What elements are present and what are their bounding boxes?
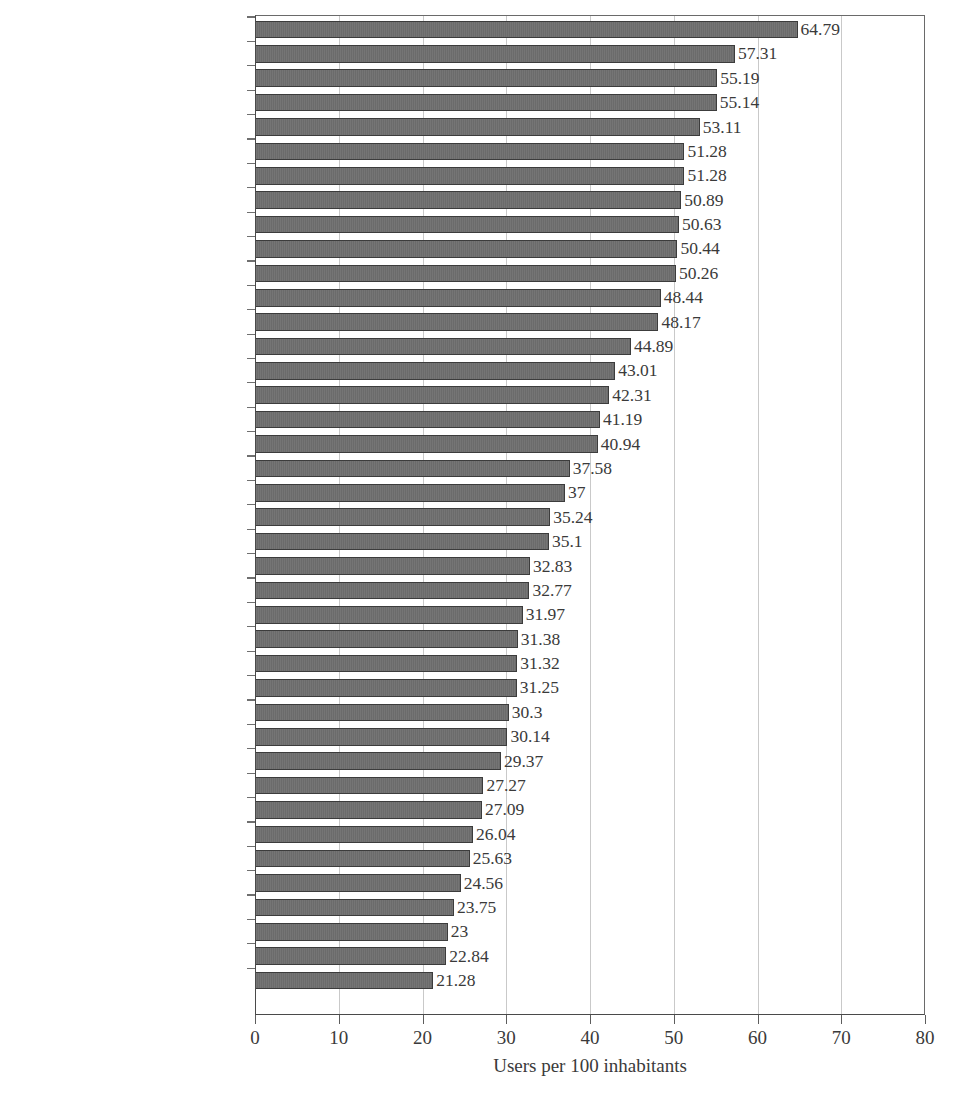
bar (255, 118, 700, 136)
bar-value-label: 29.37 (501, 750, 543, 773)
bar-row: Ireland27.09 (255, 798, 925, 822)
bar-row: Canada51.28 (255, 164, 925, 188)
x-axis-tick (758, 1015, 759, 1024)
y-axis-tick (247, 626, 255, 627)
y-axis-tick (247, 334, 255, 335)
bar-row: Chile23.75 (255, 895, 925, 919)
bar-row: Netherlands50.63 (255, 213, 925, 237)
bar-value-label: 22.84 (446, 945, 488, 968)
bar-value-label: 48.44 (661, 286, 703, 309)
bar-value-label: 26.04 (473, 823, 515, 846)
bar-row: Estonia32.77 (255, 578, 925, 602)
bar-row: United Arab Emirates31.32 (255, 652, 925, 676)
y-axis-tick (247, 260, 255, 261)
bar (255, 216, 679, 234)
bar (255, 265, 676, 283)
y-axis-tick (247, 602, 255, 603)
bar (255, 655, 517, 673)
bar-chart-figure: Iceland64.79Sweden57.31Korea55.19United … (0, 0, 954, 1096)
bar-row: Australia48.17 (255, 310, 925, 334)
y-axis-tick (247, 748, 255, 749)
bar-value-label: 24.56 (461, 872, 503, 895)
x-axis-tick-label: 40 (581, 1026, 600, 1050)
bar (255, 704, 509, 722)
bar-row: Malaysia31.97 (255, 603, 925, 627)
bar (255, 411, 600, 429)
bar-row: Saint Kitts and Nevis21.28 (255, 969, 925, 993)
plot-area: Iceland64.79Sweden57.31Korea55.19United … (255, 15, 925, 1015)
bar-value-label: 42.31 (609, 384, 651, 407)
bar-row: Singapore50.44 (255, 237, 925, 261)
bar-row: Hong Kong43.01 (255, 359, 925, 383)
bar (255, 167, 684, 185)
bar-row: Cyprus29.37 (255, 749, 925, 773)
y-axis-tick (247, 65, 255, 66)
bar (255, 801, 482, 819)
bar-value-label: 51.28 (684, 164, 726, 187)
y-axis-tick (247, 894, 255, 895)
y-axis-tick (247, 431, 255, 432)
bar (255, 923, 448, 941)
y-axis-tick (247, 797, 255, 798)
bar-row: Bahrain24.56 (255, 871, 925, 895)
bar-value-label: 44.89 (631, 335, 673, 358)
bar-row: Italy35.24 (255, 505, 925, 529)
y-axis-tick (247, 675, 255, 676)
y-axis-tick (247, 577, 255, 578)
bar-value-label: 50.63 (679, 213, 721, 236)
bar-row: Guam31.25 (255, 676, 925, 700)
x-axis-tick-label: 0 (250, 1026, 260, 1050)
bar (255, 947, 446, 965)
y-axis-tick (247, 504, 255, 505)
bar (255, 606, 523, 624)
bar-value-label: 53.11 (700, 116, 742, 139)
bar (255, 289, 661, 307)
bar-value-label: 40.94 (598, 433, 640, 456)
y-axis-tick (247, 699, 255, 700)
bar-row: Belgium32.83 (255, 554, 925, 578)
x-axis-tick-label: 80 (916, 1026, 935, 1050)
y-axis-tick (247, 382, 255, 383)
bar-value-label: 31.32 (517, 652, 559, 675)
bar (255, 899, 454, 917)
bar (255, 752, 501, 770)
bar-row: Austria40.94 (255, 432, 925, 456)
x-axis-title: Users per 100 inhabitants (255, 1055, 925, 1077)
bar-row: New Zealand48.44 (255, 286, 925, 310)
bar (255, 508, 550, 526)
y-axis-tick (247, 919, 255, 920)
bar-value-label: 30.14 (507, 725, 549, 748)
x-axis-tick-label: 70 (832, 1026, 851, 1050)
bar (255, 94, 717, 112)
bar-rows: Iceland64.79Sweden57.31Korea55.19United … (255, 15, 925, 1015)
bar-row: Malta30.3 (255, 700, 925, 724)
y-axis-tick (247, 163, 255, 164)
x-axis-tick (674, 1015, 675, 1024)
bar (255, 679, 517, 697)
bar-value-label: 48.17 (658, 311, 700, 334)
bar (255, 240, 677, 258)
y-axis-tick (247, 90, 255, 91)
bar-value-label: 37.58 (570, 457, 612, 480)
bar-value-label: 35.24 (550, 506, 592, 529)
y-axis-tick (247, 285, 255, 286)
y-axis-tick (247, 212, 255, 213)
bar-value-label: 55.14 (717, 91, 759, 114)
x-axis-tick (841, 1015, 842, 1024)
y-axis-tick (247, 724, 255, 725)
y-axis-tick (247, 455, 255, 456)
bar (255, 557, 530, 575)
bar (255, 630, 518, 648)
bar-row: Korea55.19 (255, 66, 925, 90)
bar-value-label: 35.1 (549, 530, 583, 553)
y-axis-tick (247, 846, 255, 847)
x-axis-tick-label: 30 (497, 1026, 516, 1050)
bar-value-label: 37 (565, 481, 586, 504)
bar-value-label: 55.19 (717, 67, 759, 90)
bar (255, 460, 570, 478)
x-axis-tick (423, 1015, 424, 1024)
y-axis-tick (247, 358, 255, 359)
bar (255, 143, 684, 161)
bar-value-label: 32.83 (530, 555, 572, 578)
bar-row: Norway50.26 (255, 261, 925, 285)
